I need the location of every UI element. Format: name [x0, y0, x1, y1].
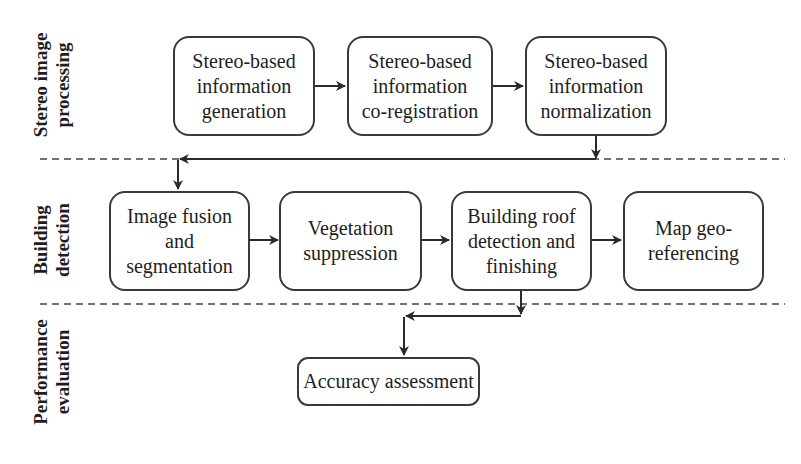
lane-label-building-detection: Building detection	[30, 185, 76, 295]
box-map-georeferencing: Map geo- referencing	[623, 191, 764, 291]
lane-label-performance-evaluation: Performance evaluation	[30, 307, 76, 437]
lane-label-stereo-image-processing: Stereo image processing	[30, 20, 76, 150]
box-stereo-information-normalization: Stereo-based information normalization	[525, 36, 667, 136]
box-stereo-information-generation: Stereo-based information generation	[173, 36, 315, 136]
box-image-fusion-segmentation: Image fusion and segmentation	[109, 191, 250, 291]
box-building-roof-detection-finishing: Building roof detection and finishing	[451, 191, 592, 291]
box-vegetation-suppression: Vegetation suppression	[279, 191, 422, 291]
box-stereo-information-coregistration: Stereo-based information co-registration	[347, 36, 493, 136]
box-accuracy-assessment: Accuracy assessment	[297, 357, 480, 406]
